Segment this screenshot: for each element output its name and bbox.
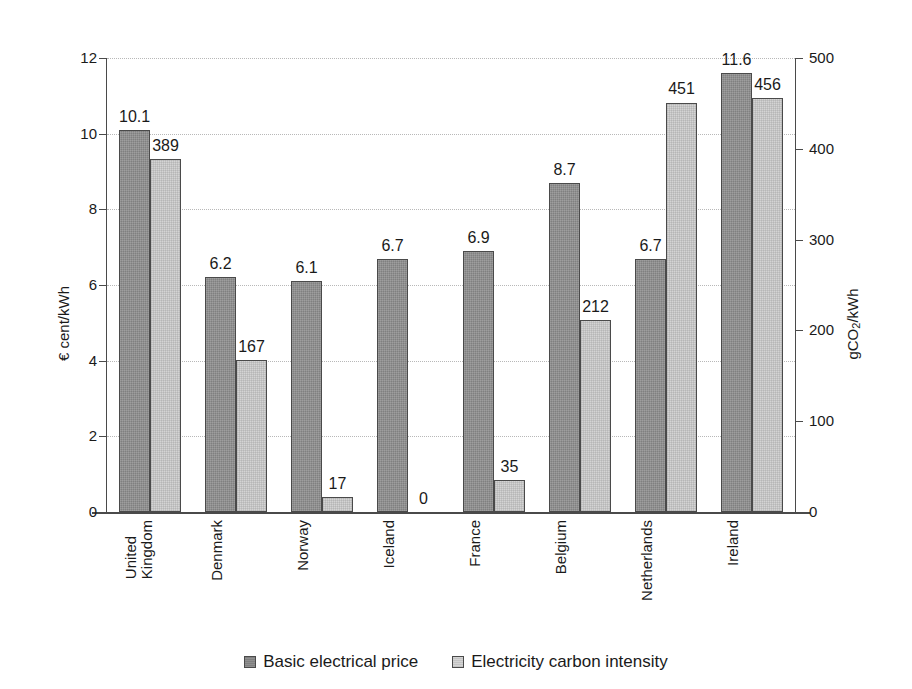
legend-swatch-dark [244,656,256,668]
left-axis-tick-label: 8 [57,201,97,216]
category-label: Norway [295,520,311,571]
left-axis-tick-label: 6 [57,277,97,292]
left-axis-title: € cent/kWh [55,249,72,399]
bar-light [236,360,267,512]
category-label-line: Denmark [209,520,225,581]
left-axis-tick-label: 0 [57,504,97,519]
right-axis-line [795,58,796,513]
right-axis-tick-mark [795,149,803,150]
right-axis-tick-label: 100 [809,413,853,428]
category-label-line: Netherlands [639,520,655,601]
bar-value-label: 35 [494,459,525,475]
left-axis-tick-mark [99,512,107,513]
bar-dark [635,259,666,512]
left-axis-tick-label: 12 [57,50,97,65]
x-axis-line [92,512,810,514]
right-axis-tick-label: 0 [809,504,853,519]
right-axis-tick-label: 200 [809,322,853,337]
legend-item[interactable]: Basic electrical price [244,652,418,672]
category-label: Denmark [209,520,225,581]
bar-light [322,497,353,512]
bar-value-label: 6.9 [463,230,494,246]
left-axis-tick-label: 4 [57,353,97,368]
left-axis-tick-label: 2 [57,428,97,443]
bar-light [580,320,611,512]
left-axis-tick-mark [99,361,107,362]
legend-item[interactable]: Electricity carbon intensity [452,652,668,672]
category-label: Ireland [725,520,741,566]
bar-dark [291,281,322,512]
bar-value-label: 8.7 [549,162,580,178]
right-axis-tick-mark [795,512,803,513]
bar-value-label: 0 [408,491,439,507]
bar-value-label: 11.6 [721,52,752,68]
plot-area: 10.13896.21676.1176.706.9358.72126.74511… [107,58,795,512]
right-axis-tick-label: 500 [809,50,853,65]
bar-value-label: 167 [236,339,267,355]
category-label-line: Iceland [381,520,397,568]
bar-value-label: 6.7 [377,238,408,254]
right-axis-tick-label: 400 [809,141,853,156]
bar-value-label: 17 [322,476,353,492]
bar-dark [549,183,580,512]
right-axis-tick-label: 300 [809,232,853,247]
left-axis-tick-mark [99,58,107,59]
left-axis-tick-label: 10 [57,126,97,141]
legend-label: Electricity carbon intensity [471,652,668,672]
bar-light [752,98,783,512]
bar-dark [377,259,408,512]
left-axis-tick-mark [99,209,107,210]
gridline [107,58,795,59]
category-label-line: France [467,520,483,567]
category-label: Iceland [381,520,397,568]
legend-swatch-light [452,656,464,668]
bar-value-label: 389 [150,138,181,154]
bar-dark [119,130,150,512]
bar-dark [463,251,494,512]
left-axis-tick-mark [99,285,107,286]
bar-light [666,103,697,513]
bar-value-label: 451 [666,81,697,97]
right-axis-tick-mark [795,58,803,59]
category-label: UnitedKingdom [123,520,155,579]
bar-value-label: 212 [580,299,611,315]
category-label: Netherlands [639,520,655,601]
bar-value-label: 456 [752,77,783,93]
category-label-line: Belgium [553,520,569,574]
left-axis-tick-mark [99,134,107,135]
right-axis-title-suffix: /kWh [844,288,861,322]
bar-value-label: 6.1 [291,260,322,276]
bar-value-label: 10.1 [119,109,150,125]
bar-chart: € cent/kWh gCO2/kWh 10.13896.21676.1176.… [0,0,912,689]
bar-value-label: 6.2 [205,256,236,272]
legend-label: Basic electrical price [263,652,418,672]
left-axis-tick-mark [99,436,107,437]
right-axis-tick-mark [795,240,803,241]
right-axis-tick-mark [795,330,803,331]
right-axis-tick-mark [795,421,803,422]
category-label-line: United [123,520,139,579]
bar-dark [721,73,752,512]
chart-legend: Basic electrical priceElectricity carbon… [0,652,912,672]
category-label-line: Norway [295,520,311,571]
category-label-line: Ireland [725,520,741,566]
bar-value-label: 6.7 [635,238,666,254]
category-label: Belgium [553,520,569,574]
bar-light [494,480,525,512]
bar-dark [205,277,236,512]
category-label-line: Kingdom [139,520,155,579]
bar-light [150,159,181,512]
category-label: France [467,520,483,567]
